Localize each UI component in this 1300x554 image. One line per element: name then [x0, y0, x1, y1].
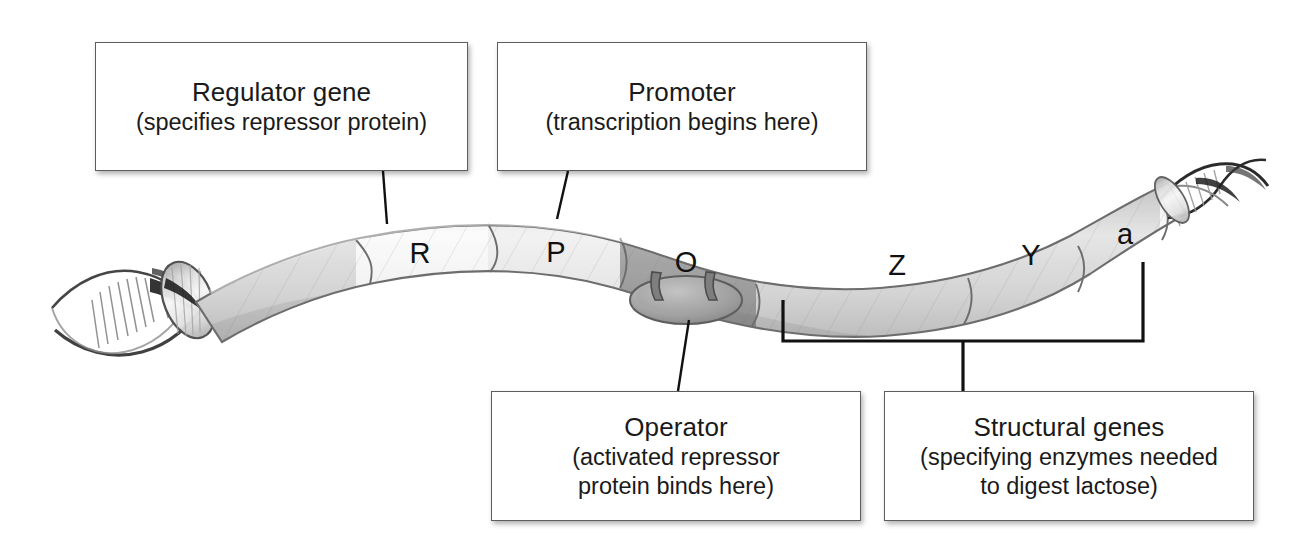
- operator-callout-subtitle-line1: (activated repressor: [572, 443, 780, 472]
- structural-callout-subtitle-line2: to digest lactose): [980, 472, 1158, 501]
- structural-callout-title: Structural genes: [974, 412, 1165, 443]
- structural-callout-subtitle-line1: (specifying enzymes needed: [920, 443, 1218, 472]
- regulator-gene-callout: Regulator gene (specifies repressor prot…: [95, 42, 468, 171]
- leader-line-operator: [678, 320, 689, 391]
- leader-line-regulator: [383, 171, 387, 224]
- operator-callout-subtitle-line2: protein binds here): [578, 472, 774, 501]
- regulator-callout-subtitle: (specifies repressor protein): [136, 108, 427, 137]
- promoter-callout-title: Promoter: [628, 77, 736, 108]
- leader-line-promoter: [557, 171, 568, 219]
- dna-tube: [180, 150, 1260, 400]
- operator-callout-title: Operator: [624, 412, 727, 443]
- regulator-callout-title: Regulator gene: [192, 77, 371, 108]
- diagram-canvas: R P O Z Y a Regulator gene (specifies re…: [0, 0, 1300, 554]
- promoter-callout: Promoter (transcription begins here): [497, 42, 867, 171]
- operator-callout: Operator (activated repressor protein bi…: [491, 391, 861, 521]
- promoter-callout-subtitle: (transcription begins here): [546, 108, 819, 137]
- structural-genes-callout: Structural genes (specifying enzymes nee…: [884, 391, 1254, 521]
